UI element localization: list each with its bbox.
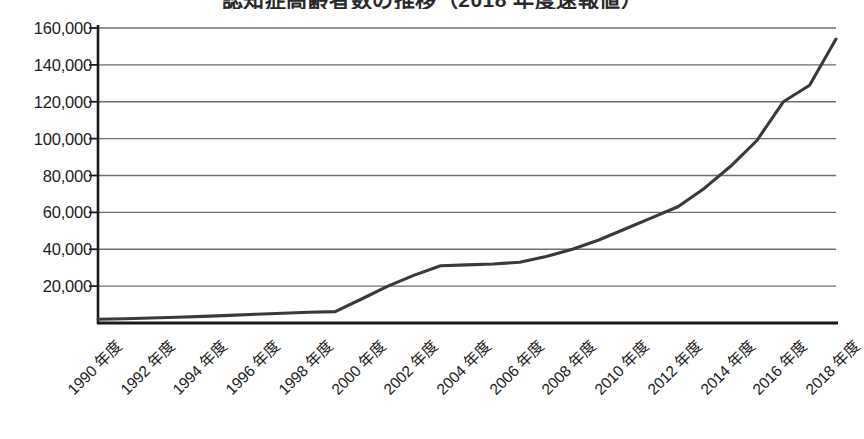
x-axis-tick-label: 1990 年度 [61, 334, 126, 399]
x-axis-tick-label: 2012 年度 [641, 334, 706, 399]
x-axis-tick-label: 2018 年度 [799, 334, 864, 399]
x-axis-tick-label: 2010 年度 [588, 334, 653, 399]
x-axis-tick-label: 2000 年度 [325, 334, 390, 399]
x-axis-tick-label: 2016 年度 [747, 334, 812, 399]
x-axis-tick-label: 2014 年度 [694, 334, 759, 399]
x-axis-tick-label: 1992 年度 [114, 334, 179, 399]
x-axis-tick-label: 1996 年度 [219, 334, 284, 399]
chart-root: 認知症高齢者数の推移（2018 年度速報値） 160,000140,000120… [0, 0, 864, 439]
x-axis-tick-label: 1998 年度 [272, 334, 337, 399]
x-axis-tick-label: 2008 年度 [536, 334, 601, 399]
x-axis-tick-label: 1994 年度 [167, 334, 232, 399]
x-axis-labels: 1990 年度1992 年度1994 年度1996 年度1998 年度2000 … [0, 0, 864, 439]
x-axis-tick-label: 2004 年度 [430, 334, 495, 399]
x-axis-tick-label: 2006 年度 [483, 334, 548, 399]
x-axis-tick-label: 2002 年度 [378, 334, 443, 399]
